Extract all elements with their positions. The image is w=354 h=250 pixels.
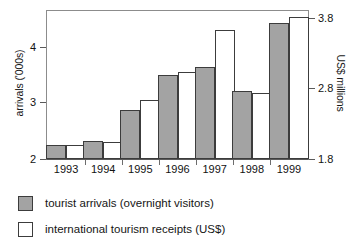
bar-arrivals — [158, 75, 178, 159]
x-axis-label-1999: 1999 — [259, 163, 319, 175]
y-axis-right-tick-18: 1.8 — [318, 153, 348, 165]
y-axis-right-tickmark-38 — [309, 18, 315, 19]
y-axis-left-tick-4: 4 — [6, 41, 36, 53]
chart-legend: tourist arrivals (overnight visitors) in… — [18, 190, 225, 242]
bar-group — [269, 11, 309, 159]
bar-group — [195, 11, 235, 159]
y-axis-left-tick-3: 3 — [6, 96, 36, 108]
bar-receipts — [289, 17, 309, 159]
bar-group — [158, 11, 198, 159]
y-axis-left-tickmark-2 — [40, 159, 46, 160]
bar-arrivals — [269, 23, 289, 159]
tourism-bar-chart: arrivals ('000s) US$ millions 4 3 2 3.8 … — [0, 0, 354, 250]
legend-label-receipts: international tourism receipts (US$) — [45, 223, 225, 235]
legend-label-arrivals: tourist arrivals (overnight visitors) — [45, 197, 214, 209]
bar-group — [46, 11, 86, 159]
bar-arrivals — [46, 145, 66, 159]
y-axis-right-tick-28: 2.8 — [318, 82, 348, 94]
y-axis-right-tickmark-28 — [309, 88, 315, 89]
legend-item-receipts: international tourism receipts (US$) — [18, 216, 225, 242]
bar-arrivals — [83, 141, 103, 159]
bar-group — [83, 11, 123, 159]
bar-arrivals — [195, 67, 215, 159]
legend-swatch-grey-icon — [18, 196, 33, 211]
bars-plot-area — [48, 11, 308, 159]
bar-arrivals — [120, 110, 140, 159]
legend-swatch-white-icon — [18, 222, 33, 237]
bar-arrivals — [232, 91, 252, 159]
y-axis-right-tickmark-18 — [309, 159, 315, 160]
bar-group — [232, 11, 272, 159]
y-axis-left-tick-2: 2 — [6, 153, 36, 165]
bar-group — [120, 11, 160, 159]
y-axis-right-tick-38: 3.8 — [318, 12, 348, 24]
legend-item-arrivals: tourist arrivals (overnight visitors) — [18, 190, 225, 216]
